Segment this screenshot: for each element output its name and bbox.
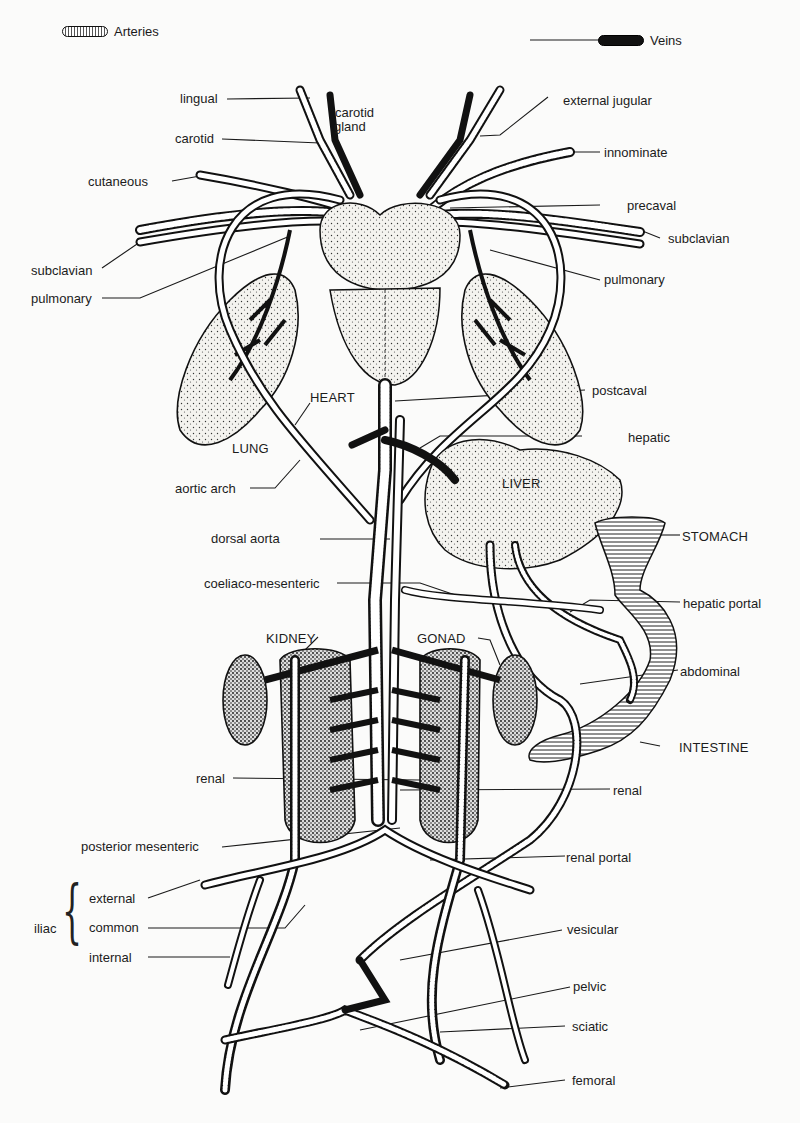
label-iliac-external: external [89, 891, 135, 906]
label-carotid-gland-2: gland [334, 119, 366, 134]
label-aortic-arch: aortic arch [175, 481, 236, 496]
label-innominate: innominate [604, 145, 668, 160]
label-postcaval: postcaval [592, 383, 647, 398]
label-hepatic-portal: hepatic portal [683, 596, 761, 611]
legend-arteries-label: Arteries [114, 24, 159, 39]
label-abdominal: abdominal [680, 664, 740, 679]
label-vesicular: vesicular [567, 922, 618, 937]
legend-veins-label: Veins [650, 33, 682, 48]
label-femoral: femoral [572, 1073, 615, 1088]
label-kidney: KIDNEY [266, 631, 316, 646]
label-external-jugular: external jugular [563, 93, 652, 108]
label-gonad: GONAD [417, 631, 466, 646]
label-renal-left: renal [196, 771, 225, 786]
label-iliac: iliac [34, 921, 56, 936]
label-dorsal-aorta: dorsal aorta [211, 531, 280, 546]
label-subclavian-left: subclavian [31, 263, 92, 278]
label-heart: HEART [310, 390, 355, 405]
label-pulmonary-right: pulmonary [604, 272, 665, 287]
label-intestine: INTESTINE [679, 740, 749, 755]
label-carotid: carotid [175, 131, 214, 146]
label-pelvic: pelvic [573, 979, 606, 994]
label-lung: LUNG [232, 441, 269, 456]
label-coeliaco-mesenteric: coeliaco-mesenteric [204, 576, 320, 591]
label-hepatic: hepatic [628, 430, 670, 445]
liver [425, 440, 622, 569]
label-sciatic: sciatic [572, 1019, 608, 1034]
label-subclavian-right: subclavian [668, 231, 729, 246]
label-renal-portal: renal portal [566, 850, 631, 865]
vein-swatch-icon [598, 35, 644, 46]
artery-swatch-icon [62, 26, 108, 37]
label-iliac-common: common [89, 920, 139, 935]
label-cutaneous: cutaneous [88, 174, 148, 189]
label-renal-right: renal [613, 783, 642, 798]
legend-arteries: Arteries [62, 24, 159, 39]
brace-icon: { [62, 888, 82, 934]
legend-veins: Veins [598, 33, 682, 48]
label-pulmonary-left: pulmonary [31, 291, 92, 306]
label-stomach: STOMACH [682, 529, 748, 544]
label-posterior-mesenteric: posterior mesenteric [81, 839, 199, 854]
label-lingual: lingual [180, 91, 218, 106]
label-liver: LIVER [502, 476, 541, 491]
label-precaval: precaval [627, 198, 676, 213]
label-iliac-internal: internal [89, 950, 132, 965]
heart [320, 203, 460, 385]
label-carotid-gland-1: carotid [335, 105, 374, 120]
